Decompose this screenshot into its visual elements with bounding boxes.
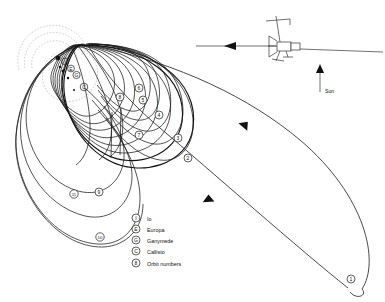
- legend-item-callisto: C Callisto: [132, 247, 165, 255]
- legend-symbol-io: I: [135, 215, 136, 221]
- legend-item-ganymede: G Ganymede: [132, 236, 173, 244]
- galileo-spacecraft-icon: [196, 16, 383, 61]
- sun-label: Sun: [325, 88, 334, 94]
- orbit-label-4-text: 4: [158, 112, 161, 118]
- legend-label-callisto: Callisto: [147, 249, 165, 255]
- legend-item-orbit-numbers: 8 Orbit numbers: [132, 259, 181, 267]
- orbit-label-3-text: 3: [177, 135, 180, 141]
- legend-item-europa: E Europa: [132, 225, 164, 233]
- orbit-label-11: 11: [70, 190, 78, 198]
- trajectory-arrow-upper: [237, 120, 248, 131]
- orbit-label-1-text: 1: [350, 276, 353, 282]
- legend-symbol-ganymede: G: [134, 237, 138, 243]
- legend-symbol-orbit-numbers: 8: [135, 260, 138, 266]
- orbit-diagram-figure: I E G C: [0, 0, 385, 302]
- up-arrow-icon: [316, 64, 324, 73]
- orbit-label-4: 4: [155, 111, 163, 119]
- legend-label-europa: Europa: [147, 227, 164, 233]
- left-arrow-icon: [224, 42, 236, 50]
- legend-label-io: Io: [147, 216, 152, 222]
- orbit-label-9: 9: [95, 188, 103, 196]
- orbit-label-9-text: 9: [98, 189, 101, 195]
- orbit-label-5-text: 5: [142, 97, 145, 103]
- magnetosphere-boundary: [18, 25, 107, 111]
- orbit-label-7-text: 7: [138, 132, 141, 138]
- orbit-label-10: 10: [96, 233, 104, 241]
- legend-label-orbit-numbers: Orbit numbers: [147, 261, 181, 267]
- orbit-label-2-text: 2: [187, 155, 190, 161]
- orbit-label-8: 8: [116, 93, 124, 101]
- legend-symbol-callisto: C: [134, 248, 138, 254]
- orbit-label-2: 2: [184, 154, 192, 162]
- moon-marker-europa: E: [68, 65, 75, 72]
- moon-marker-ganymede-label: G: [75, 72, 79, 78]
- approach-trajectory: [88, 45, 369, 296]
- orbit-label-1: 1: [347, 275, 355, 283]
- orbit-label-10-text: 10: [98, 235, 103, 240]
- legend-label-ganymede: Ganymede: [147, 238, 173, 244]
- orbit-label-7: 7: [135, 131, 143, 139]
- orbit-label-8-text: 8: [119, 94, 122, 100]
- orbit-label-11-text: 11: [72, 192, 77, 197]
- orbit-petal-paths: [16, 44, 194, 247]
- sun-direction-indicator: Sun: [316, 64, 334, 94]
- trajectory-arrow-lower: [201, 194, 214, 207]
- orbit-label-5: 5: [139, 96, 147, 104]
- orbit-label-6-text: 6: [138, 85, 141, 91]
- orbit-label-6: 6: [135, 84, 143, 92]
- moon-marker-ganymede: G: [73, 71, 80, 78]
- orbit-label-3: 3: [174, 134, 182, 142]
